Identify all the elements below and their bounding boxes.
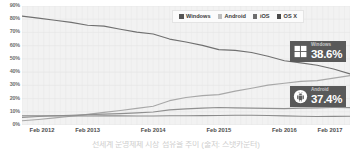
x-axis-tick-label: Feb 2015 [206,128,231,134]
legend-item-windows[interactable]: Windows [179,14,211,20]
y-axis-tick-label: 40% [10,69,20,74]
legend-item-ios[interactable]: iOS [253,14,270,20]
y-axis-tick-label: 30% [10,83,20,88]
android-robot-icon [293,89,308,104]
legend-swatch-icon [179,14,184,19]
y-axis-tick-label: 80% [10,17,20,22]
chart-legend: WindowsAndroidiOSOS X [172,10,304,23]
legend-swatch-icon [277,14,282,19]
callout-android-value: 37.4% [311,94,342,106]
y-axis-tick-label: 20% [10,96,20,101]
legend-item-os-x[interactable]: OS X [277,14,297,20]
legend-item-label: Windows [186,14,211,20]
y-axis-tick-label: 60% [10,43,20,48]
y-axis-tick-label: 0% [13,122,21,127]
x-axis-tick-label: Feb 2016 [272,128,297,134]
x-axis-tick-label: Feb 2013 [75,128,100,134]
legend-item-label: OS X [284,14,297,20]
x-axis-tick-label: Feb 2017 [318,128,343,134]
callout-windows-label: Windows [311,43,331,48]
callout-android-label: Android [311,88,329,93]
legend-item-label: Android [225,14,246,20]
callout-windows-value: 38.6% [311,49,342,61]
callout-windows[interactable]: Windows 38.6% [290,41,346,62]
x-axis-tick-label: Feb 2014 [141,128,166,134]
legend-item-android[interactable]: Android [218,14,246,20]
y-axis-tick-label: 50% [10,56,20,61]
windows-logo-icon [293,44,308,59]
callout-windows-text: Windows 38.6% [311,43,342,60]
x-axis-tick-label: Feb 2012 [30,128,55,134]
callout-android[interactable]: Android 37.4% [290,86,346,107]
callout-android-text: Android 37.4% [311,88,342,105]
y-axis-tick-label: 90% [10,3,20,8]
legend-item-label: iOS [260,14,270,20]
y-axis-tick-label: 10% [10,109,20,114]
os-market-share-chart: 0%10%20%30%40%50%60%70%80%90% Feb 2012Fe… [0,0,352,153]
chart-lines-svg [22,6,350,125]
plot-area [22,6,350,125]
legend-swatch-icon [218,14,223,19]
chart-caption: 전세계 운영체제 시장 점유율 추이 (출처: 스탯카운터) [0,141,352,153]
y-axis-tick-label: 70% [10,30,20,35]
x-axis: Feb 2012Feb 2013Feb 2014Feb 2015Feb 2016… [22,128,350,140]
legend-swatch-icon [253,14,258,19]
y-axis: 0%10%20%30%40%50%60%70%80%90% [0,0,22,131]
